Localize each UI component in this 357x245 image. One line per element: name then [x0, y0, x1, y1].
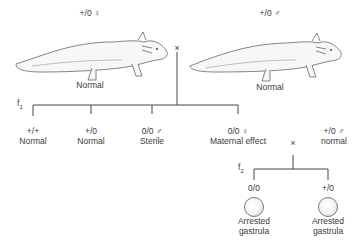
phenotype: Arrested gastrula	[303, 217, 353, 236]
phenotype: normal	[314, 136, 354, 146]
parent-male-phenotype: Normal	[240, 82, 300, 92]
genotype: 0/0 ♀	[208, 126, 268, 136]
genotype: +/+	[13, 126, 53, 136]
cross-symbol-2: ×	[286, 138, 300, 148]
phenotype: Normal	[66, 136, 116, 146]
genotype: 0/0 ♂	[132, 126, 172, 136]
phenotype: Sterile	[127, 136, 177, 146]
parent-male-genotype: +/0 ♂	[240, 8, 300, 18]
f1-label: f1	[17, 98, 27, 112]
f2-label: f2	[238, 162, 248, 176]
axolotl-male-illustration	[186, 26, 346, 84]
phenotype: Maternal effect	[198, 136, 278, 146]
parent-female-genotype: +/0 ♀	[60, 8, 120, 18]
gastrula-embryo	[318, 197, 338, 217]
genotype: +/0 ♂	[314, 126, 354, 136]
parent-female-phenotype: Normal	[60, 80, 120, 90]
cross-symbol: ×	[170, 43, 184, 53]
phenotype: Normal	[8, 136, 58, 146]
genotype: +/0	[313, 183, 343, 193]
genotype: +/0	[71, 126, 111, 136]
axolotl-female-illustration	[12, 26, 172, 84]
genotype: 0/0	[239, 183, 269, 193]
phenotype: Arrested gastrula	[229, 217, 279, 236]
gastrula-embryo	[244, 197, 264, 217]
